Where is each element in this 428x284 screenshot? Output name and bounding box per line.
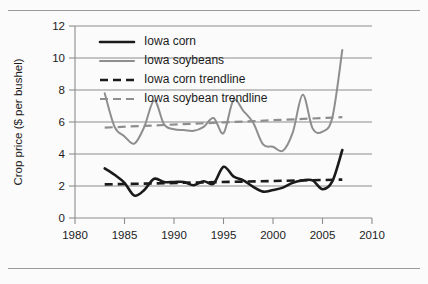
y-tick-label-2: 2 xyxy=(59,180,65,192)
figure-container: 024681012 1980198519901995200020052010 C… xyxy=(0,0,428,284)
x-tick-labels-group: 1980198519901995200020052010 xyxy=(62,229,385,241)
legend-label-2: Iowa corn trendline xyxy=(144,72,246,86)
legend-label-0: Iowa corn xyxy=(144,34,196,48)
gridlines-group xyxy=(75,26,372,186)
line-chart: 024681012 1980198519901995200020052010 C… xyxy=(0,14,428,264)
chart-legend: Iowa cornIowa soybeansIowa corn trendlin… xyxy=(100,34,268,105)
y-tick-label-8: 8 xyxy=(59,84,65,96)
x-tick-label-1995: 1995 xyxy=(211,229,237,241)
y-tickmarks-group xyxy=(69,26,75,218)
x-tick-label-1990: 1990 xyxy=(161,229,187,241)
y-tick-label-4: 4 xyxy=(59,148,66,160)
legend-label-1: Iowa soybeans xyxy=(144,53,224,67)
y-tick-label-6: 6 xyxy=(59,116,65,128)
y-axis-title: Crop price ($ per bushel) xyxy=(12,58,24,185)
y-tick-label-10: 10 xyxy=(52,52,65,64)
y-tick-label-12: 12 xyxy=(52,20,65,32)
y-tick-labels-group: 024681012 xyxy=(52,20,65,224)
top-divider-rule xyxy=(8,10,420,11)
x-tick-label-2005: 2005 xyxy=(310,229,336,241)
x-tick-label-1985: 1985 xyxy=(112,229,138,241)
x-tickmarks-group xyxy=(75,218,372,224)
x-tick-label-1980: 1980 xyxy=(62,229,88,241)
chart-plot-area: 024681012 1980198519901995200020052010 C… xyxy=(0,14,428,264)
x-tick-label-2010: 2010 xyxy=(359,229,385,241)
legend-label-3: Iowa soybean trendline xyxy=(144,91,268,105)
series-line-iowa-corn xyxy=(105,150,343,196)
bottom-divider-rule xyxy=(8,268,420,269)
x-tick-label-2000: 2000 xyxy=(260,229,286,241)
y-tick-label-0: 0 xyxy=(59,212,65,224)
